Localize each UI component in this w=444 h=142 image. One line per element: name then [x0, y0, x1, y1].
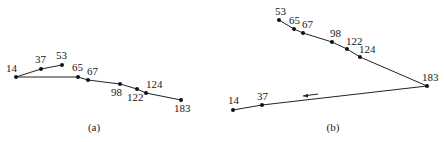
- track-label: 53: [275, 5, 287, 17]
- track-point: [144, 91, 148, 95]
- track-label: 122: [127, 91, 144, 103]
- track-label: 14: [228, 94, 240, 106]
- track-label: 183: [174, 102, 191, 114]
- track-point: [345, 47, 349, 51]
- track-point: [277, 18, 281, 22]
- track-label: 124: [146, 78, 163, 90]
- track-label: 67: [302, 18, 314, 30]
- track-point: [292, 27, 296, 31]
- track-point: [358, 55, 362, 59]
- track-point: [76, 75, 80, 79]
- track-label: 67: [87, 65, 99, 77]
- track-point: [60, 63, 64, 67]
- diagram-b: 536567981221241833714(b): [228, 5, 439, 134]
- diagram-caption: (a): [88, 121, 101, 134]
- track-point: [86, 78, 90, 82]
- track-point: [330, 40, 334, 44]
- arrowhead-icon: [303, 94, 308, 98]
- track-label: 53: [56, 49, 68, 61]
- track-point: [301, 31, 305, 35]
- track-label: 37: [257, 90, 269, 102]
- track-label: 37: [35, 53, 47, 65]
- track-point: [39, 67, 43, 71]
- diagram-canvas: 143753656798122124183(a) 536567981221241…: [0, 0, 444, 142]
- track-point: [425, 84, 429, 88]
- track-label: 124: [359, 43, 376, 55]
- track-point: [14, 75, 18, 79]
- track-label: 183: [422, 71, 439, 83]
- track-label: 98: [330, 27, 342, 39]
- diagram-caption: (b): [327, 121, 340, 134]
- track-label: 65: [72, 61, 84, 73]
- diagram-a: 143753656798122124183(a): [6, 49, 191, 134]
- track-label: 98: [111, 86, 123, 98]
- track-label: 65: [289, 14, 301, 26]
- track-label: 14: [6, 62, 18, 74]
- track-point: [231, 108, 235, 112]
- track-point: [260, 103, 264, 107]
